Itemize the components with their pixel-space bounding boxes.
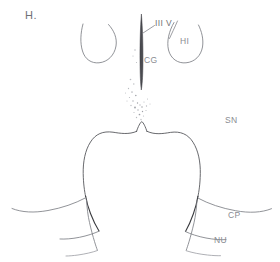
third-ventricle-leader-line bbox=[142, 26, 154, 34]
label-substantia-nigra: SN bbox=[225, 115, 238, 125]
peduncle-line-left bbox=[12, 198, 85, 212]
left-tail-faint bbox=[66, 251, 98, 257]
label-hippocampus: HI bbox=[180, 36, 189, 46]
dome-outline-right bbox=[147, 131, 200, 196]
dome-outline-left bbox=[83, 131, 137, 196]
label-nucleus: NU bbox=[214, 235, 227, 245]
third-ventricle-shape bbox=[140, 14, 143, 90]
line-drawing-canvas bbox=[0, 0, 280, 262]
right-tail-faint bbox=[186, 251, 220, 256]
anatomical-figure-panel: H. III V CG HI SN CP NU bbox=[0, 0, 280, 262]
label-cerebral-peduncle: CP bbox=[228, 210, 241, 220]
panel-letter-label: H. bbox=[25, 9, 37, 21]
label-third-ventricle: III V bbox=[155, 18, 172, 28]
midline-apex bbox=[137, 122, 148, 132]
label-cingulate-gyrus: CG bbox=[144, 55, 158, 65]
left-horn-outline bbox=[81, 24, 116, 63]
